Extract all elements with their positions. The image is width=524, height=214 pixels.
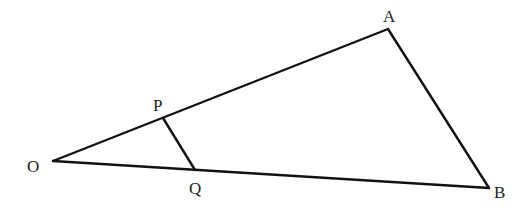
segment-PQ (163, 118, 195, 170)
label-B: B (494, 183, 505, 202)
segment-AB (388, 29, 489, 188)
label-Q: Q (189, 179, 201, 198)
segment-OA (53, 29, 388, 161)
label-A: A (383, 7, 396, 26)
label-P: P (153, 96, 162, 115)
segment-OB (53, 161, 489, 188)
label-O: O (27, 157, 39, 176)
triangle-diagram: O P Q A B (0, 0, 524, 214)
